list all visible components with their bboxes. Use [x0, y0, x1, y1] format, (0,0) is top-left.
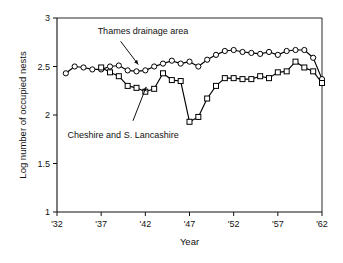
annotation-label-0: Thames drainage area	[98, 26, 189, 36]
data-point-0-12	[169, 58, 174, 63]
x-tick-label-1: '37	[95, 219, 107, 229]
data-point-0-1	[72, 64, 77, 69]
data-point-1-22	[293, 59, 298, 64]
chart-figure: 11.522.53'32'37'42'47'52'57'62YearLog nu…	[0, 0, 343, 263]
data-point-1-10	[187, 119, 192, 124]
data-point-0-14	[187, 59, 192, 64]
y-tick-label-0: 1	[45, 207, 50, 217]
line-chart: 11.522.53'32'37'42'47'52'57'62YearLog nu…	[0, 0, 343, 263]
y-tick-label-1: 1.5	[37, 159, 50, 169]
data-point-0-28	[311, 55, 316, 60]
data-point-0-5	[107, 64, 112, 69]
data-point-1-12	[205, 96, 210, 101]
data-point-0-19	[231, 47, 236, 52]
data-point-1-8	[169, 78, 174, 83]
data-point-0-9	[143, 68, 148, 73]
data-point-1-0	[99, 65, 104, 70]
y-tick-label-4: 3	[45, 13, 50, 23]
x-axis-title: Year	[180, 236, 199, 247]
data-point-1-17	[249, 77, 254, 82]
data-point-1-16	[240, 77, 245, 82]
data-point-0-2	[81, 65, 86, 70]
data-point-0-11	[160, 61, 165, 66]
annotation-label-1: Cheshire and S. Lancashire	[68, 130, 179, 140]
data-point-0-8	[134, 69, 139, 74]
data-point-1-3	[125, 83, 130, 88]
data-point-0-27	[302, 47, 307, 52]
data-point-1-6	[152, 86, 157, 91]
data-point-0-18	[222, 48, 227, 53]
data-point-1-14	[222, 76, 227, 81]
x-tick-label-3: '47	[184, 219, 196, 229]
data-point-1-15	[231, 76, 236, 81]
y-tick-label-3: 2.5	[37, 62, 50, 72]
data-point-1-2	[116, 74, 121, 79]
data-point-0-13	[178, 61, 183, 66]
data-point-0-7	[125, 68, 130, 73]
data-point-0-23	[266, 49, 271, 54]
data-point-1-24	[311, 69, 316, 74]
series-line-0	[66, 50, 322, 79]
data-point-0-21	[249, 50, 254, 55]
y-tick-label-2: 2	[45, 110, 50, 120]
data-point-0-22	[258, 51, 263, 56]
data-point-0-26	[293, 47, 298, 52]
data-point-1-4	[134, 85, 139, 90]
data-point-0-15	[196, 64, 201, 69]
data-point-0-24	[275, 52, 280, 57]
data-point-1-21	[284, 69, 289, 74]
data-point-0-6	[116, 63, 121, 68]
data-point-1-9	[178, 79, 183, 84]
data-point-1-13	[214, 83, 219, 88]
annotation-arrow-1	[133, 87, 146, 121]
data-point-0-16	[205, 57, 210, 62]
data-point-0-10	[152, 64, 157, 69]
data-point-1-7	[161, 71, 166, 76]
data-point-1-19	[267, 76, 272, 81]
data-point-1-18	[258, 74, 263, 79]
x-tick-label-5: '57	[272, 219, 284, 229]
data-point-0-20	[240, 49, 245, 54]
data-point-0-3	[90, 67, 95, 72]
data-point-1-11	[196, 114, 201, 119]
data-point-1-23	[302, 65, 307, 70]
x-tick-label-6: '62	[316, 219, 328, 229]
x-tick-label-0: '32	[51, 219, 63, 229]
data-point-0-0	[63, 71, 68, 76]
x-tick-label-2: '42	[139, 219, 151, 229]
data-point-1-25	[320, 80, 325, 85]
data-point-1-20	[275, 70, 280, 75]
x-tick-label-4: '52	[228, 219, 240, 229]
y-axis-title: Log number of occupied nests	[17, 51, 28, 179]
data-point-0-25	[284, 48, 289, 53]
annotation-arrow-0	[121, 41, 139, 64]
data-point-1-1	[108, 70, 113, 75]
data-point-0-17	[213, 52, 218, 57]
